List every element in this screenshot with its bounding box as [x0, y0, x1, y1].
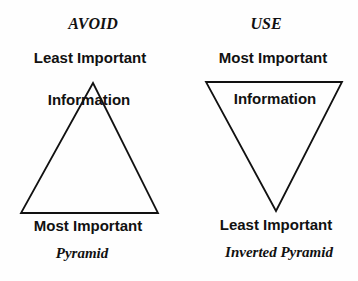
- inverted-pyramid-middle-label: Information: [234, 90, 317, 107]
- inverted-pyramid-bottom-label: Least Important: [220, 216, 333, 233]
- inverted-pyramid-caption: Inverted Pyramid: [225, 244, 333, 261]
- pyramid-bottom-label: Most Important: [34, 217, 142, 234]
- diagram-shapes: [0, 0, 358, 281]
- inverted-pyramid-top-label: Most Important: [219, 49, 327, 66]
- pyramid-top-label: Least Important: [34, 49, 147, 66]
- pyramid-caption: Pyramid: [56, 245, 109, 262]
- avoid-heading: AVOID: [68, 15, 118, 33]
- pyramid-middle-label: Information: [48, 91, 131, 108]
- pyramid-comparison-diagram: AVOID Least Important Information Most I…: [0, 0, 358, 281]
- use-heading: USE: [250, 15, 281, 33]
